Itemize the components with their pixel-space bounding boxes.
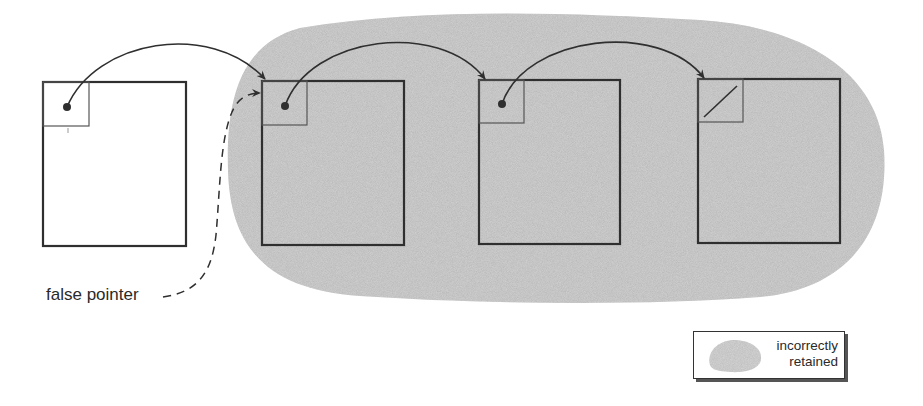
root-object (43, 82, 186, 246)
legend-line-2: retained (776, 354, 838, 370)
retained-swatch-icon (706, 337, 766, 375)
false-pointer-label: false pointer (46, 285, 139, 305)
retained-region (228, 13, 885, 302)
legend-label: incorrectly retained (776, 338, 838, 370)
legend: incorrectly retained (693, 331, 845, 379)
legend-line-1: incorrectly (776, 338, 838, 354)
